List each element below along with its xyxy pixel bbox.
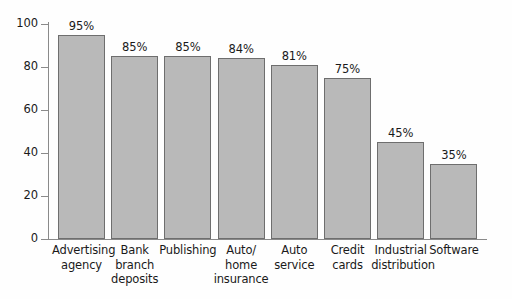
bar — [377, 142, 424, 239]
category-label-line: agency — [52, 258, 111, 273]
category-label-line: service — [265, 258, 324, 273]
category-label-line: home — [212, 258, 271, 273]
bar-value-label: 85% — [164, 41, 211, 53]
y-tick-label: 40 — [6, 147, 38, 159]
plot-area: 020406080100 95%85%85%84%81%75%45%35% Ad… — [0, 0, 512, 299]
y-tick-label: 0 — [6, 233, 38, 245]
bar-value-label: 45% — [377, 127, 424, 139]
y-tick-label: 20 — [6, 190, 38, 202]
category-label-line: distribution — [371, 258, 430, 273]
y-tick-mark — [41, 67, 48, 68]
category-label-line: Publishing — [158, 243, 217, 258]
category-label-line: insurance — [212, 272, 271, 287]
bar-value-label: 95% — [58, 20, 105, 32]
y-tick-mark — [41, 239, 48, 240]
category-label-line: Bank — [105, 243, 164, 258]
category-label: Autoservice — [265, 243, 324, 272]
bar — [218, 58, 265, 239]
y-tick-mark — [41, 110, 48, 111]
y-tick-mark — [41, 196, 48, 197]
category-label-line: cards — [318, 258, 377, 273]
bar — [324, 78, 371, 239]
bar-value-label: 85% — [111, 41, 158, 53]
category-label: Software — [424, 243, 483, 258]
category-label: Advertisingagency — [52, 243, 111, 272]
bar-chart: 020406080100 95%85%85%84%81%75%45%35% Ad… — [0, 0, 512, 299]
category-label-line: branch — [105, 258, 164, 273]
category-label: Creditcards — [318, 243, 377, 272]
y-tick-mark — [41, 153, 48, 154]
category-label-line: deposits — [105, 272, 164, 287]
y-tick-mark — [41, 24, 48, 25]
y-tick-label: 80 — [6, 61, 38, 73]
bar — [164, 56, 211, 239]
category-label-line: Auto/ — [212, 243, 271, 258]
bar — [111, 56, 158, 239]
category-label-line: Credit — [318, 243, 377, 258]
y-tick-label: 60 — [6, 104, 38, 116]
y-axis-line — [48, 22, 49, 240]
category-label: Auto/homeinsurance — [212, 243, 271, 287]
bar — [271, 65, 318, 239]
category-label: Industrialdistribution — [371, 243, 430, 272]
category-label-line: Software — [424, 243, 483, 258]
bar-value-label: 84% — [218, 43, 265, 55]
bar-value-label: 35% — [430, 149, 477, 161]
bar-value-label: 75% — [324, 63, 371, 75]
category-label: Publishing — [158, 243, 217, 258]
bar — [58, 35, 105, 239]
bar-value-label: 81% — [271, 50, 318, 62]
bar — [430, 164, 477, 239]
category-label-line: Industrial — [371, 243, 430, 258]
category-label: Bankbranchdeposits — [105, 243, 164, 287]
category-label-line: Advertising — [52, 243, 111, 258]
category-label-line: Auto — [265, 243, 324, 258]
y-tick-label: 100 — [6, 18, 38, 30]
x-axis-line — [48, 239, 487, 240]
